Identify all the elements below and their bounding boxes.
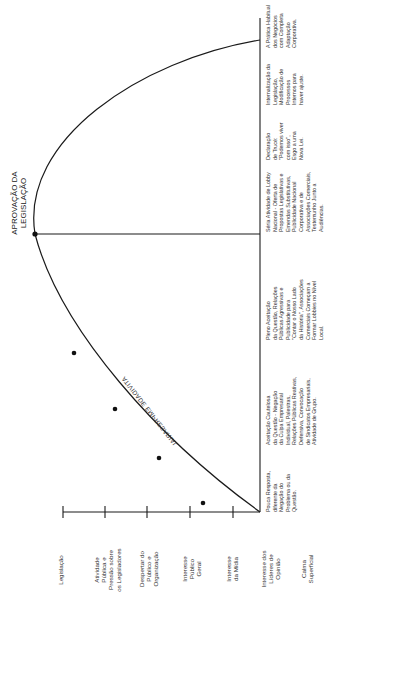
stage-text-2: Aceitação Cautelosa da Questão - Negação…: [265, 345, 318, 445]
level-label-despertar: Despertar do Público e Organização: [138, 538, 160, 600]
curve-points: [32, 231, 205, 505]
peak-label: APROVAÇÃO DA LEGISLAÇÃO: [10, 168, 28, 238]
stage-text-1: Pouca Resposta, diferente da Negação do …: [265, 444, 298, 512]
level-label-interesse-publico: Interesse Público Geral: [181, 546, 203, 592]
stage-text-3: Pleno Aceitação da Questão, Relações Púb…: [265, 240, 324, 340]
level-label-calma-superficial: Calma Superficial: [300, 544, 314, 594]
stage-text-7: A Prática Habitual dos Negócios com Comp…: [265, 0, 298, 48]
level-label-legislacao: Legislação: [57, 540, 64, 600]
level-label-atividade-publica: Atividade Pública e Pressão sobre os Leg…: [93, 538, 122, 602]
activity-curve: [34, 40, 260, 512]
stage-text-5: Declaração de Trucé: "Podemos viver com …: [265, 100, 305, 160]
level-label-interesse-midia: Interesse da Mídia: [225, 548, 239, 590]
level-label-lideres-opiniao: Interesse dos Líderes de Opinião: [260, 540, 282, 598]
